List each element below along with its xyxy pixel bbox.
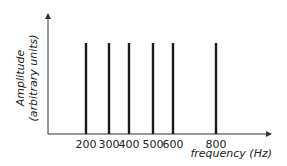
y-axis-label-line2: (arbitrary units) [27,34,40,121]
spectrum-bars [86,43,216,134]
x-tick-600: 600 [163,138,184,151]
x-tick-300: 300 [99,138,120,151]
x-tick-400: 400 [119,138,140,151]
x-tick-200: 200 [76,138,97,151]
y-axis-label: Amplitude (arbitrary units) [14,34,40,121]
x-tick-500: 500 [143,138,164,151]
chart: 200300400500600800 Amplitude (arbitrary … [0,0,287,166]
x-axis-label: frequency (Hz) [190,147,272,160]
y-axis-label-line1: Amplitude [14,50,27,108]
